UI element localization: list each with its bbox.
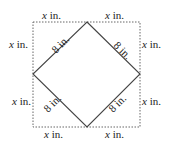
label-left-top: x in.: [8, 38, 28, 50]
label-top-left: x in.: [41, 9, 61, 21]
label-bottom-left: x in.: [43, 128, 63, 140]
label-diag-top-right: 8 in.: [112, 39, 134, 61]
label-left-bottom: x in.: [11, 95, 31, 107]
label-diag-bottom-left: 8 in.: [41, 92, 63, 114]
label-diag-top-left: 8 in.: [49, 33, 71, 55]
square-diamond-diagram: x in. x in. x in. x in. x in. x in. x in…: [0, 0, 178, 153]
label-right-bottom: x in.: [141, 95, 161, 107]
label-diag-bottom-right: 8 in.: [106, 92, 128, 114]
label-bottom-right: x in.: [104, 128, 124, 140]
label-top-right: x in.: [104, 9, 124, 21]
label-right-top: x in.: [141, 38, 161, 50]
